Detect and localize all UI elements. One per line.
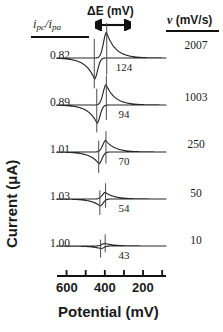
x-axis-title: Potential (mV) <box>58 303 159 320</box>
x-tick-label-200: 200 <box>132 280 154 295</box>
y-axis-title: Current (μA) <box>3 160 20 248</box>
x-tick-label-600: 600 <box>56 280 78 295</box>
figure-canvas: ipc/ipa ΔE (mV) ν (mV/s) 0.82 0.89 1.01 … <box>0 0 223 332</box>
x-tick-label-400: 400 <box>94 280 116 295</box>
